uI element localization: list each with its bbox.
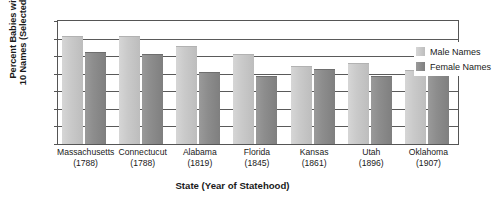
y-axis-title: Percent Babies with Top 10 Names (Select… bbox=[3, 0, 33, 90]
x-axis-tick-label-alabama: Alabama(1819) bbox=[171, 147, 228, 168]
bar-female-massachusetts bbox=[85, 52, 106, 144]
x-label-year: (1896) bbox=[343, 158, 400, 169]
x-label-year: (1788) bbox=[114, 158, 171, 169]
legend-item-male: Male Names bbox=[416, 44, 491, 59]
bar-male-alabama bbox=[176, 46, 197, 144]
x-label-state: Florida bbox=[228, 147, 285, 158]
x-axis-tick-label-kansas: Kansas(1861) bbox=[286, 147, 343, 168]
bar-female-connectucut bbox=[142, 54, 163, 144]
plot-area: 02468101214 Male Names Female Names bbox=[57, 20, 459, 145]
x-axis-title: State (Year of Statehood) bbox=[0, 180, 465, 191]
x-label-state: Kansas bbox=[286, 147, 343, 158]
bar-group bbox=[172, 21, 229, 144]
bar-group bbox=[115, 21, 172, 144]
bar-male-florida bbox=[233, 54, 254, 144]
bar-male-connectucut bbox=[119, 36, 140, 144]
bar-female-alabama bbox=[199, 72, 220, 144]
x-label-state: Alabama bbox=[171, 147, 228, 158]
bars-layer bbox=[58, 21, 458, 144]
bar-male-massachusetts bbox=[62, 36, 83, 144]
bar-group bbox=[287, 21, 344, 144]
bar-group bbox=[58, 21, 115, 144]
legend-label-female: Female Names bbox=[430, 62, 491, 72]
bar-group bbox=[229, 21, 286, 144]
bar-female-oklahoma bbox=[428, 75, 449, 144]
x-axis-tick-label-utah: Utah(1896) bbox=[343, 147, 400, 168]
x-label-state: Massachusetts bbox=[57, 147, 114, 158]
bar-group bbox=[401, 21, 458, 144]
x-label-year: (1907) bbox=[400, 158, 457, 169]
x-label-year: (1819) bbox=[171, 158, 228, 169]
y-axis-title-line-1: Percent Babies with Top bbox=[8, 0, 18, 79]
y-axis-title-line-2: 10 Names (Selected States) bbox=[18, 0, 28, 85]
bar-group bbox=[344, 21, 401, 144]
bar-female-kansas bbox=[314, 69, 335, 144]
legend-label-male: Male Names bbox=[430, 47, 481, 57]
bar-male-oklahoma bbox=[405, 70, 426, 144]
x-label-state: Utah bbox=[343, 147, 400, 158]
x-label-year: (1861) bbox=[286, 158, 343, 169]
chart-legend: Male Names Female Names bbox=[414, 42, 494, 76]
x-label-year: (1788) bbox=[57, 158, 114, 169]
legend-item-female: Female Names bbox=[416, 59, 491, 74]
bar-male-kansas bbox=[291, 66, 312, 144]
female-swatch-icon bbox=[416, 62, 425, 71]
x-label-state: Connectucut bbox=[114, 147, 171, 158]
x-axis-tick-label-florida: Florida(1845) bbox=[228, 147, 285, 168]
x-axis-tick-label-massachusetts: Massachusetts(1788) bbox=[57, 147, 114, 168]
y-axis-tick-mark bbox=[54, 144, 58, 145]
bar-male-utah bbox=[348, 63, 369, 144]
bar-female-utah bbox=[371, 76, 392, 144]
x-label-year: (1845) bbox=[228, 158, 285, 169]
bar-female-florida bbox=[256, 76, 277, 144]
x-axis-tick-label-connectucut: Connectucut(1788) bbox=[114, 147, 171, 168]
male-swatch-icon bbox=[416, 47, 425, 56]
x-label-state: Oklahoma bbox=[400, 147, 457, 158]
x-axis-tick-label-oklahoma: Oklahoma(1907) bbox=[400, 147, 457, 168]
